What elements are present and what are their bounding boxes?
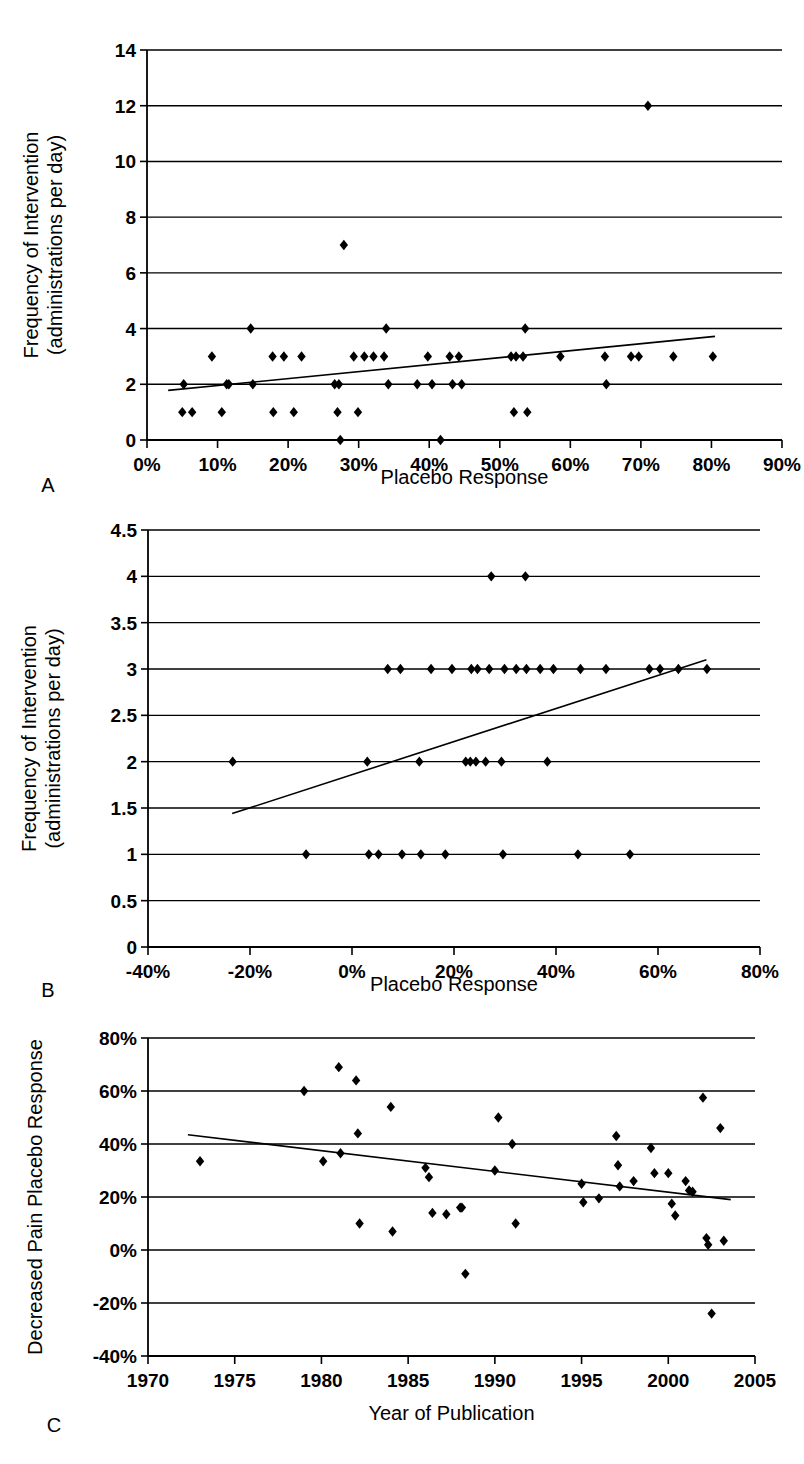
data-point — [457, 379, 465, 389]
data-point — [302, 849, 310, 859]
data-point — [499, 849, 507, 859]
y-tick-label: 0 — [125, 430, 136, 451]
x-tick-label: 1980 — [300, 1370, 342, 1391]
data-point — [455, 351, 463, 361]
data-point — [340, 240, 348, 250]
data-point — [417, 849, 425, 859]
data-point — [519, 351, 527, 361]
y-tick-label: 1.5 — [111, 798, 138, 819]
data-point — [612, 1131, 620, 1141]
data-point — [602, 379, 610, 389]
data-point — [671, 1210, 679, 1220]
data-point — [709, 351, 717, 361]
y-tick-label: 2.5 — [111, 705, 138, 726]
y-tick-label: 2 — [125, 374, 136, 395]
x-tick-label: 60% — [639, 961, 677, 982]
data-point — [445, 351, 453, 361]
x-tick-label: -40% — [126, 961, 170, 982]
data-point — [616, 1181, 624, 1191]
data-point — [674, 664, 682, 674]
y-tick-label: 20% — [99, 1187, 137, 1208]
panel-c: -40%-20%0%20%40%60%80%197019751980198519… — [0, 1000, 804, 1464]
data-point — [425, 1172, 433, 1182]
data-point — [508, 1139, 516, 1149]
y-tick-label: -20% — [93, 1293, 137, 1314]
trendline — [232, 660, 706, 814]
data-point — [280, 351, 288, 361]
panel-letter: B — [41, 979, 54, 1000]
data-point — [644, 101, 652, 111]
data-point — [494, 1112, 502, 1122]
data-point — [716, 1123, 724, 1133]
data-point — [536, 664, 544, 674]
x-tick-label: 1990 — [474, 1370, 516, 1391]
y-tick-label: 4.5 — [111, 520, 138, 541]
y-tick-label: 4 — [126, 566, 137, 587]
gridlines — [147, 50, 782, 440]
data-point — [387, 1102, 395, 1112]
y-axis: -40%-20%0%20%40%60%80% — [93, 1028, 148, 1367]
data-point — [481, 756, 489, 766]
data-point — [614, 1160, 622, 1170]
x-axis: 19701975198019851990199520002005 — [127, 1356, 777, 1391]
data-point — [703, 664, 711, 674]
data-point — [363, 756, 371, 766]
y-tick-label: 1 — [126, 844, 137, 865]
data-point — [384, 379, 392, 389]
data-point — [336, 1148, 344, 1158]
x-tick-label: 80% — [692, 454, 730, 475]
data-point — [485, 664, 493, 674]
panel-b: 00.511.522.533.544.5-40%-20%0%20%40%60%8… — [0, 500, 804, 1000]
y-tick-label: 10 — [115, 151, 136, 172]
data-point — [549, 664, 557, 674]
y-tick-label: 3.5 — [111, 613, 138, 634]
data-point — [413, 379, 421, 389]
data-point — [577, 1179, 585, 1189]
y-tick-label: 4 — [125, 319, 136, 340]
x-tick-label: 10% — [199, 454, 237, 475]
data-point — [500, 664, 508, 674]
data-point — [627, 351, 635, 361]
data-point — [374, 849, 382, 859]
x-axis-title: Placebo Response — [370, 973, 538, 995]
gridlines — [148, 530, 760, 947]
data-point — [335, 379, 343, 389]
data-point — [511, 1218, 519, 1228]
data-point — [635, 351, 643, 361]
data-point — [448, 379, 456, 389]
data-point — [448, 664, 456, 674]
data-point — [720, 1236, 728, 1246]
data-point — [268, 351, 276, 361]
data-point — [428, 379, 436, 389]
x-tick-label: 0% — [338, 961, 366, 982]
data-point — [249, 379, 257, 389]
x-tick-label: 90% — [763, 454, 801, 475]
x-tick-label: -20% — [228, 961, 272, 982]
data-point — [360, 351, 368, 361]
data-point — [473, 664, 481, 674]
panel-c-canvas: -40%-20%0%20%40%60%80%197019751980198519… — [0, 1000, 804, 1464]
trendline — [168, 336, 715, 390]
data-point — [523, 407, 531, 417]
data-point — [656, 664, 664, 674]
x-tick-label: 2005 — [734, 1370, 777, 1391]
data-point — [602, 664, 610, 674]
y-axis-title-line1: Decreased Pain Placebo Response — [24, 1039, 46, 1355]
data-point — [178, 407, 186, 417]
data-point — [497, 756, 505, 766]
y-tick-label: 0% — [110, 1240, 138, 1261]
data-point — [208, 351, 216, 361]
data-point — [228, 756, 236, 766]
x-tick-label: 80% — [741, 961, 779, 982]
data-point — [472, 756, 480, 766]
y-tick-label: 6 — [125, 263, 136, 284]
panel-a-canvas: 024681012140%10%20%30%40%50%60%70%80%90%… — [0, 0, 804, 500]
data-point — [574, 849, 582, 859]
y-axis: 02468101214 — [115, 40, 147, 451]
y-tick-label: 80% — [99, 1028, 137, 1049]
x-tick-label: 0% — [133, 454, 161, 475]
y-tick-label: 2 — [126, 752, 137, 773]
data-point — [196, 1156, 204, 1166]
data-point — [436, 435, 444, 445]
data-point — [669, 351, 677, 361]
